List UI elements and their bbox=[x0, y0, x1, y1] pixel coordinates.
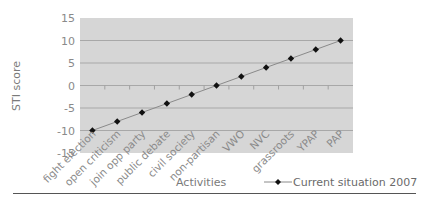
legend-label: Current situation 2007 bbox=[293, 176, 417, 189]
y-axis-title: STI score bbox=[10, 61, 23, 111]
y-tick-label: 5 bbox=[68, 57, 75, 70]
horizontal-rule bbox=[13, 193, 416, 194]
y-tick-label: -5 bbox=[64, 102, 75, 115]
legend: Current situation 2007 bbox=[264, 176, 417, 189]
x-axis-title: Activities bbox=[176, 176, 226, 189]
line-chart: 151050-5-10-15 fight electionopen critic… bbox=[0, 0, 429, 205]
y-tick-label: 0 bbox=[68, 80, 75, 93]
y-axis-tick-labels: 151050-5-10-15 bbox=[57, 12, 75, 160]
y-tick-label: -10 bbox=[57, 125, 75, 138]
y-tick-label: 15 bbox=[61, 12, 75, 25]
y-tick-label: 10 bbox=[61, 35, 75, 48]
legend-diamond-marker-icon bbox=[275, 179, 281, 185]
